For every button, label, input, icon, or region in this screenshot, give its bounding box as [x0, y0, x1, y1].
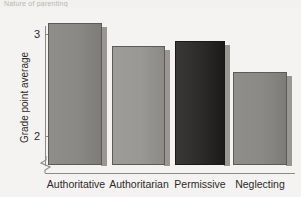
- x-tick-label-authoritative: Authoritative: [40, 178, 112, 190]
- x-tick-label-neglecting: Neglecting: [228, 178, 292, 190]
- chart-screenshot: Nature of parenting Grade point average …: [0, 0, 301, 197]
- bar-permissive: [175, 41, 225, 165]
- y-tick-label-3: 3: [22, 29, 40, 40]
- clipped-page-text: Nature of parenting: [4, 0, 144, 7]
- bar-authoritative: [48, 23, 102, 165]
- y-axis-line: [45, 26, 46, 166]
- y-tick-label-2: 2: [22, 131, 40, 142]
- x-axis-baseline: [45, 173, 295, 174]
- bar-authoritarian: [112, 46, 165, 165]
- bar-chart-figure: Grade point average 3 2 Authoritative Au…: [0, 8, 301, 197]
- x-tick-label-authoritarian: Authoritarian: [103, 178, 175, 190]
- x-tick-label-permissive: Permissive: [168, 178, 232, 190]
- bar-neglecting: [233, 72, 287, 165]
